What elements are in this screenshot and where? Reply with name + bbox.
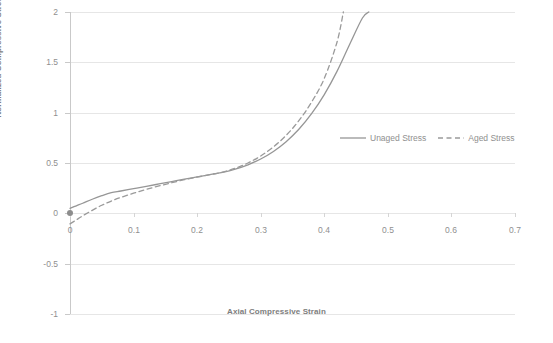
data-curves xyxy=(0,0,553,343)
legend-entry-unaged-stress: Unaged Stress xyxy=(340,133,426,143)
chart-legend: Unaged Stress Aged Stress xyxy=(340,133,515,143)
origin-marker-dot xyxy=(67,210,73,216)
legend-label-aged-stress: Aged Stress xyxy=(468,133,514,143)
legend-swatch-solid-icon xyxy=(340,134,366,142)
y-axis-title: Normalized Compressive Stress xyxy=(0,0,3,150)
series-unaged-stress-line xyxy=(70,12,369,208)
legend-entry-aged-stress: Aged Stress xyxy=(438,133,514,143)
legend-swatch-dashed-icon xyxy=(438,134,464,142)
legend-label-unaged-stress: Unaged Stress xyxy=(370,133,426,143)
chart-container: 2 1.5 1 0.5 0 -0.5 -1 0 0.1 0.2 0.3 0.4 … xyxy=(0,0,553,343)
x-axis-title: Axial Compressive Strain xyxy=(0,307,553,316)
